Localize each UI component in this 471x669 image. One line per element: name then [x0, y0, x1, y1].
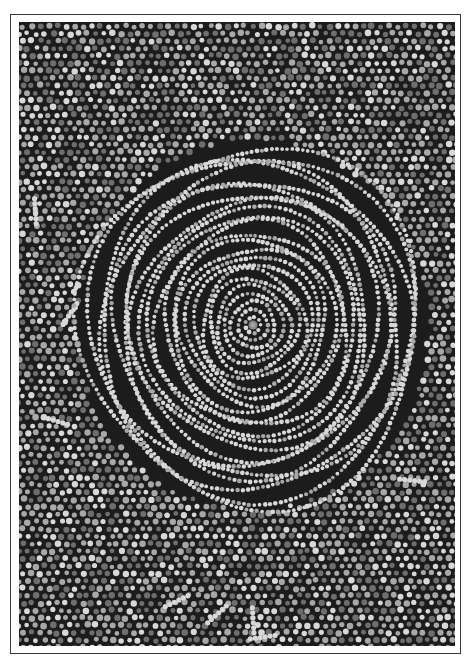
dot-painting-artwork [19, 22, 455, 646]
